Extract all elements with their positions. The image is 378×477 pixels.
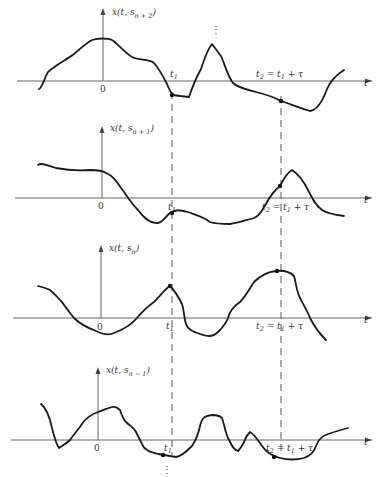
sample-point-t1 [161, 453, 165, 457]
t2-label: t2 = t1 + τ [266, 443, 314, 455]
ylabel: x(t, sn − 1) [106, 365, 150, 378]
t-axis-label: t [364, 195, 368, 205]
t2-label: t2 = t1 + τ [262, 202, 310, 214]
ylabel: x(t, sn + 1) [110, 123, 154, 136]
ylabel: x(t, sn + 2) [112, 7, 156, 20]
t1-label: t1 [166, 321, 174, 333]
t-axis-label: t [364, 437, 368, 447]
x-axis-arrow-icon [101, 8, 106, 15]
sample-point-t2 [278, 184, 282, 188]
ylabel: x(t, sn) [109, 243, 140, 256]
origin-label: 0 [100, 84, 106, 94]
random-process-diagram: x(t, sn + 2) 0 t1 t2 = t1 + τ t ⋮ x(t, s… [0, 0, 378, 477]
sample-point-t1 [170, 93, 174, 97]
x-axis-arrow-icon [99, 245, 104, 252]
origin-label: 0 [98, 201, 104, 211]
panel-sn: x(t, sn) 0 t1 t2 = t1 + τ t [13, 243, 372, 340]
x-axis-arrow-icon [96, 367, 101, 374]
t2-label: t2 = t1 + τ [256, 321, 304, 333]
x-axis-arrow-icon [100, 126, 105, 133]
ellipsis-top: ⋮ [211, 24, 221, 35]
sample-point-t2 [272, 455, 276, 459]
t-axis-label: t [364, 315, 368, 325]
sample-point-t1 [168, 284, 172, 288]
panel-sn-minus-1: x(t, sn − 1) 0 t1 t2 = t1 + τ t ⋮ [11, 365, 372, 475]
panel-sn-plus-2: x(t, sn + 2) 0 t1 t2 = t1 + τ t ⋮ [17, 7, 372, 111]
t-axis-label: t [364, 78, 368, 88]
origin-label: 0 [94, 443, 100, 453]
sample-point-t1 [170, 211, 174, 215]
sample-function-sn-plus-1 [38, 164, 344, 224]
t1-label: t1 [164, 443, 172, 455]
origin-label: 0 [97, 322, 103, 332]
t1-label: t1 [170, 69, 178, 81]
ellipsis-bottom: ⋮ [162, 464, 172, 475]
sample-point-t2 [275, 269, 279, 273]
sample-point-t2 [279, 99, 283, 103]
panel-sn-plus-1: x(t, sn + 1) 0 t1 t2 = t1 + τ t [15, 123, 372, 224]
t2-label: t2 = t1 + τ [256, 69, 304, 81]
